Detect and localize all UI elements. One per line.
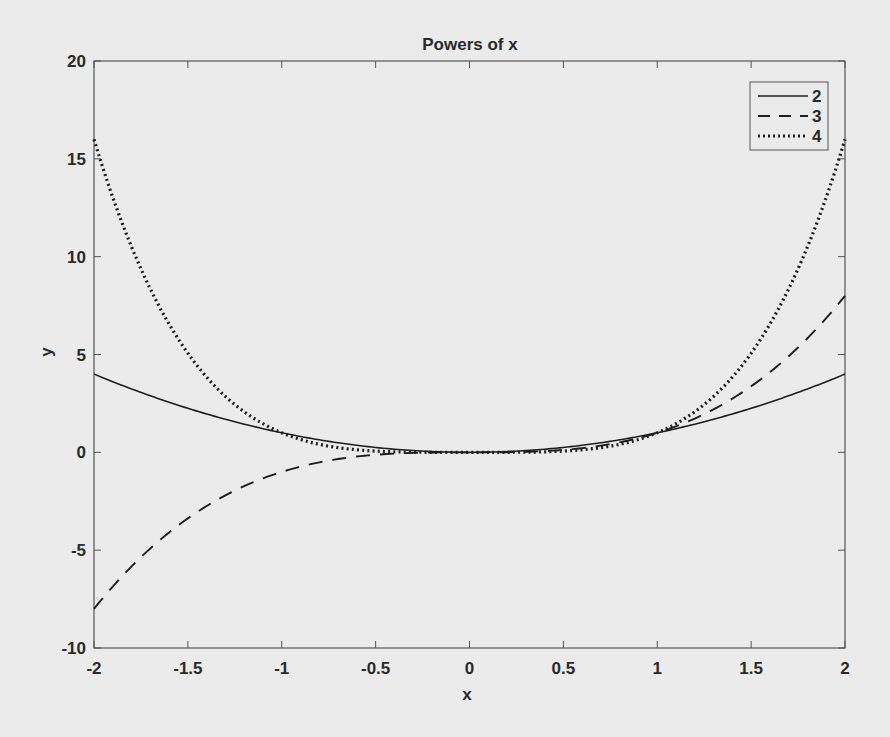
y-tick-label: 10 [67, 248, 86, 267]
series-group [94, 139, 845, 609]
y-tick-label: 5 [77, 346, 86, 365]
series-line-x4 [94, 139, 845, 452]
y-tick-label: 20 [67, 52, 86, 71]
x-axis-label: x [462, 685, 472, 704]
x-tick-label: 2 [840, 659, 849, 678]
x-tick-label: 1.5 [739, 659, 763, 678]
x-tick-label: 0.5 [552, 659, 576, 678]
line-chart: Powers of x -2-1.5-1-0.500.511.52 -10-50… [0, 0, 890, 737]
plot-area [94, 61, 845, 648]
y-tick-label: -5 [71, 541, 86, 560]
figure: Powers of x -2-1.5-1-0.500.511.52 -10-50… [0, 0, 890, 737]
y-tick-label: 0 [77, 443, 86, 462]
series-line-x2 [94, 374, 845, 452]
x-tick-label: 0 [465, 659, 474, 678]
legend-label-3: 3 [812, 107, 821, 126]
x-tick-label: -2 [86, 659, 101, 678]
chart-title: Powers of x [422, 35, 518, 54]
x-tick-label: -1 [274, 659, 289, 678]
legend-label-2: 2 [812, 87, 821, 106]
y-axis-ticks: -10-505101520 [61, 52, 845, 658]
x-tick-label: -1.5 [173, 659, 202, 678]
y-tick-label: 15 [67, 150, 86, 169]
legend: 2 3 4 [750, 82, 828, 150]
y-tick-label: -10 [61, 639, 86, 658]
legend-label-4: 4 [812, 127, 822, 146]
y-axis-label: y [37, 347, 56, 357]
x-tick-label: 1 [653, 659, 662, 678]
x-tick-label: -0.5 [361, 659, 390, 678]
